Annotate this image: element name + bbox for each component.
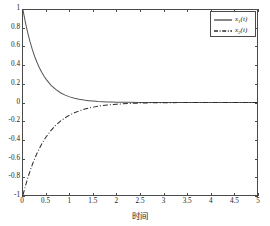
figure-container: 00.511.522.533.544.55-1-0.8-0.6-0.4-0.20… bbox=[0, 0, 270, 226]
y-tick-label: -0.2 bbox=[9, 118, 20, 125]
x-tick-label: 0.5 bbox=[41, 198, 50, 205]
y-tick-label: 1 bbox=[16, 5, 20, 12]
y-tick-mark bbox=[22, 84, 25, 85]
x-tick-label: 3 bbox=[162, 198, 166, 205]
y-tick-mark-right bbox=[255, 196, 258, 197]
legend-entry-x2: x2(t) bbox=[213, 25, 253, 36]
x-tick-mark-top bbox=[46, 9, 47, 12]
x-tick-label: 1.5 bbox=[88, 198, 97, 205]
plot-area bbox=[22, 9, 258, 196]
x-tick-mark bbox=[258, 193, 259, 196]
y-tick-mark bbox=[22, 159, 25, 160]
x-tick-label: 4.5 bbox=[230, 198, 239, 205]
y-tick-label: 0.6 bbox=[11, 43, 20, 50]
x-tick-mark-top bbox=[69, 9, 70, 12]
x-tick-mark-top bbox=[116, 9, 117, 12]
x-tick-label: 4 bbox=[209, 198, 213, 205]
y-tick-label: 0.2 bbox=[11, 80, 20, 87]
legend-label-x1: x1(t) bbox=[235, 15, 247, 24]
y-tick-mark-right bbox=[255, 46, 258, 47]
y-tick-label: -0.6 bbox=[9, 155, 20, 162]
x-tick-label: 2 bbox=[115, 198, 119, 205]
x-tick-label: 3.5 bbox=[183, 198, 192, 205]
x-tick-mark-top bbox=[187, 9, 188, 12]
x-tick-mark bbox=[140, 193, 141, 196]
x-axis-title: 时间 bbox=[132, 209, 148, 221]
y-tick-mark-right bbox=[255, 65, 258, 66]
x-tick-mark bbox=[164, 193, 165, 196]
y-tick-mark bbox=[22, 46, 25, 47]
y-tick-mark-right bbox=[255, 84, 258, 85]
x-tick-mark-top bbox=[258, 9, 259, 12]
x-tick-label: 2.5 bbox=[136, 198, 145, 205]
y-tick-mark bbox=[22, 140, 25, 141]
y-tick-mark bbox=[22, 9, 25, 10]
x-tick-label: 5 bbox=[256, 198, 260, 205]
x-tick-mark bbox=[234, 193, 235, 196]
legend-label-x2: x2(t) bbox=[235, 26, 247, 35]
x-tick-label: 0 bbox=[20, 198, 24, 205]
legend-entry-x1: x1(t) bbox=[213, 14, 253, 25]
y-tick-label: -0.4 bbox=[9, 136, 20, 143]
y-tick-mark-right bbox=[255, 9, 258, 10]
x-tick-mark-top bbox=[140, 9, 141, 12]
y-tick-mark-right bbox=[255, 177, 258, 178]
x-tick-mark-top bbox=[93, 9, 94, 12]
series-line-x2 bbox=[23, 103, 257, 196]
y-tick-label: -1 bbox=[14, 192, 20, 199]
y-tick-mark-right bbox=[255, 140, 258, 141]
y-tick-label: 0 bbox=[16, 99, 20, 106]
y-tick-label: -0.8 bbox=[9, 174, 20, 181]
x-tick-mark bbox=[46, 193, 47, 196]
y-tick-mark-right bbox=[255, 121, 258, 122]
y-tick-mark bbox=[22, 121, 25, 122]
y-tick-mark bbox=[22, 196, 25, 197]
x-tick-mark bbox=[211, 193, 212, 196]
y-tick-mark-right bbox=[255, 159, 258, 160]
y-tick-label: 0.4 bbox=[11, 61, 20, 68]
y-tick-mark bbox=[22, 28, 25, 29]
y-tick-mark bbox=[22, 177, 25, 178]
x-tick-mark bbox=[93, 193, 94, 196]
x-tick-mark bbox=[116, 193, 117, 196]
series-group bbox=[23, 10, 257, 195]
legend-box: x1(t) x2(t) bbox=[210, 11, 256, 37]
x-tick-mark bbox=[69, 193, 70, 196]
y-tick-mark-right bbox=[255, 103, 258, 104]
y-tick-mark bbox=[22, 65, 25, 66]
curve-canvas bbox=[23, 10, 257, 195]
x-tick-mark bbox=[187, 193, 188, 196]
y-tick-label: 0.8 bbox=[11, 24, 20, 31]
legend-sample-solid bbox=[213, 16, 233, 24]
y-tick-mark bbox=[22, 103, 25, 104]
legend-sample-dashdot bbox=[213, 27, 233, 35]
x-tick-label: 1 bbox=[67, 198, 71, 205]
x-tick-mark-top bbox=[164, 9, 165, 12]
